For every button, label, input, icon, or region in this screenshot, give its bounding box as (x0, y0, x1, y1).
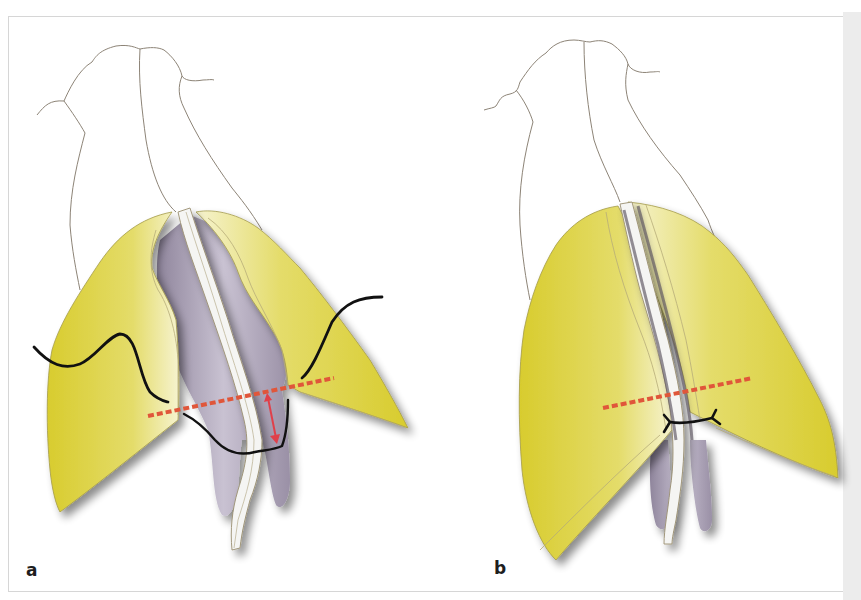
illustration-canvas (0, 0, 861, 600)
panel-b (484, 40, 838, 560)
panel-a (34, 45, 408, 550)
panel-label-a: a (26, 560, 37, 580)
panel-label-b: b (494, 558, 506, 578)
